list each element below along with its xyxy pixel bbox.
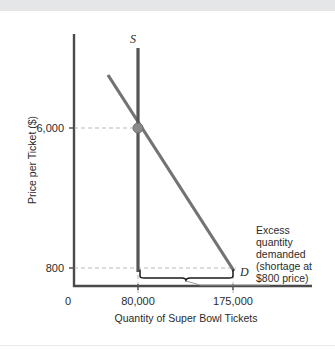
demand-curve-line [108,75,234,271]
xtick-label-175000: 175,000 [213,295,253,307]
demand-curve-label: D [239,265,249,279]
supply-curve-label: S [130,32,136,46]
reference-gridlines [74,128,236,293]
bottom-divider-rule [0,345,335,346]
supply-demand-chart: S D 6,000 800 0 80,000 175,000 Price per… [0,0,335,350]
equilibrium-point-marker [133,123,143,133]
annotation-line-4: (shortage at [256,260,312,272]
brace-path [140,270,233,281]
annotation-line-3: demanded [256,248,306,260]
ytick-label-6000: 6,000 [36,122,64,134]
annotation-line-2: quantity [256,236,294,248]
top-banner-band [0,0,335,11]
excess-quantity-annotation: Excess quantity demanded (shortage at $8… [256,224,312,284]
origin-label: 0 [65,295,71,307]
ytick-label-800: 800 [46,262,64,274]
xtick-label-80000: 80,000 [121,295,155,307]
annotation-line-5: $800 price) [256,272,309,284]
tick-marks-group [69,128,233,290]
x-axis-title: Quantity of Super Bowl Tickets [115,312,258,324]
excess-quantity-brace [140,270,270,285]
y-axis-title: Price per Ticket ($) [26,116,38,204]
figure-container: S D 6,000 800 0 80,000 175,000 Price per… [0,0,335,350]
annotation-line-1: Excess [256,224,290,236]
